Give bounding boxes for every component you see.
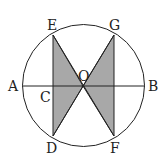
center-point-o <box>82 85 85 88</box>
label-e: E <box>47 17 57 33</box>
label-g: G <box>109 17 120 33</box>
label-a: A <box>7 78 19 94</box>
label-f: F <box>110 140 120 156</box>
label-c: C <box>40 89 51 105</box>
label-b: B <box>148 78 158 94</box>
label-o: O <box>78 68 89 84</box>
label-d: D <box>46 140 57 156</box>
geometry-diagram: E G A B O C D F <box>0 0 166 158</box>
